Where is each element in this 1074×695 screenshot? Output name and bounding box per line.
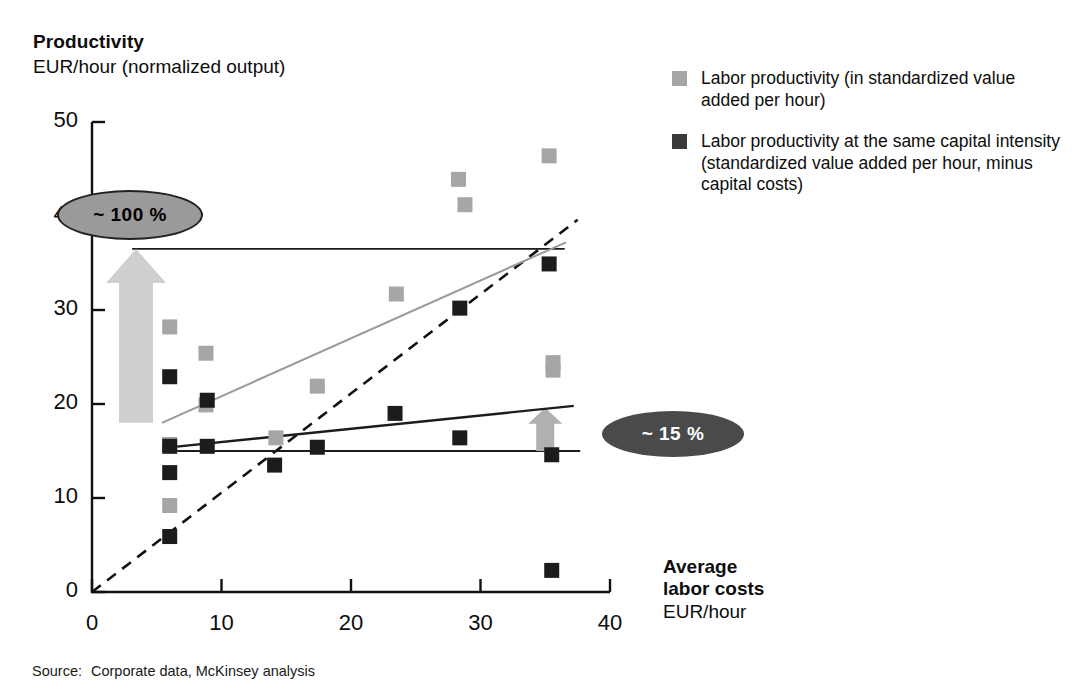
plot-area [0,0,1074,695]
x-axis-tick-label: 10 [192,610,252,636]
data-point-series-1 [162,319,177,334]
y-axis-tick-label: 10 [18,483,78,509]
data-point-series-2 [200,393,215,408]
data-point-series-1 [457,197,472,212]
chart-page: Productivity EUR/hour (normalized output… [0,0,1074,695]
y-axis-tick-label: 20 [18,389,78,415]
data-point-series-2 [544,447,559,462]
x-axis-caption-line2: labor costs [663,578,764,600]
callout-15-percent: ~ 15 % [602,411,744,457]
data-point-series-2 [542,256,557,271]
y-axis-tick-label: 30 [18,295,78,321]
data-point-series-2 [162,465,177,480]
source-text: Corporate data, McKinsey analysis [91,663,315,679]
data-point-series-1 [162,498,177,513]
source-note: Source:Corporate data, McKinsey analysis [32,663,315,679]
axis-lines [92,122,610,592]
data-point-series-2 [162,439,177,454]
data-point-series-1 [451,172,466,187]
x-axis-tick-label: 0 [62,610,122,636]
y-axis-tick-label: 50 [18,107,78,133]
data-point-series-1 [310,379,325,394]
data-point-series-1 [268,430,283,445]
callout-100-percent: ~ 100 % [57,190,203,240]
data-point-series-2 [388,406,403,421]
chart-svg [0,0,1074,695]
data-point-series-1 [546,363,561,378]
light-trendline [162,242,566,422]
data-point-series-2 [162,529,177,544]
x-axis-unit: EUR/hour [663,600,764,623]
x-axis-caption-line1: Average [663,556,764,578]
data-point-series-1 [542,148,557,163]
data-point-series-2 [452,301,467,316]
data-point-series-2 [200,439,215,454]
dark-trendline [162,406,574,448]
y-axis-tick-label: 0 [18,577,78,603]
data-point-series-1 [389,287,404,302]
data-point-series-1 [198,346,213,361]
x-axis-tick-label: 30 [451,610,511,636]
x-axis-caption: Average labor costs EUR/hour [663,556,764,623]
x-axis-tick-label: 40 [580,610,640,636]
data-point-series-2 [452,430,467,445]
x-axis-tick-label: 20 [321,610,381,636]
arrow-15-percent [528,408,562,451]
data-point-series-2 [162,369,177,384]
data-point-series-2 [544,563,559,578]
arrow-100-percent [106,249,166,423]
source-label: Source: [32,663,82,679]
data-point-series-2 [267,458,282,473]
data-point-series-2 [310,440,325,455]
